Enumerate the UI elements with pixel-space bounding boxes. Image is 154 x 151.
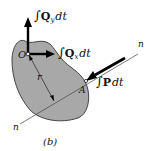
qy-arrowhead <box>24 17 32 27</box>
point-a-label: A <box>78 85 86 95</box>
point-o-marker <box>26 52 30 56</box>
p-arrow-shaft <box>95 58 125 75</box>
impulse-diagram: ∫Qydt ∫Qxdt ∫Pdt O A r n n (b) <box>0 0 154 151</box>
qy-label: ∫Qydt <box>34 8 67 24</box>
p-label: ∫Pdt <box>96 74 124 89</box>
line-n-top-label: n <box>138 39 144 49</box>
point-o-label: O <box>18 49 26 60</box>
figure-caption: (b) <box>43 136 57 147</box>
qx-label: ∫Qxdt <box>58 45 91 61</box>
line-n-bottom-label: n <box>13 122 19 132</box>
point-a-marker <box>84 79 87 82</box>
